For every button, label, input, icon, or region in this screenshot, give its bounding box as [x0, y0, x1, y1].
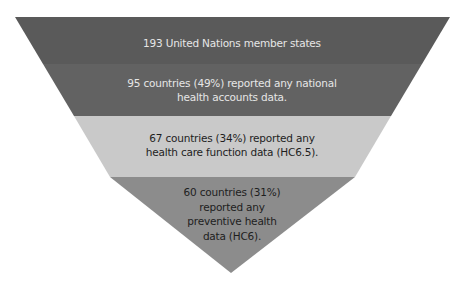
- tier-2-label: 95 countries (49%) reported any national…: [80, 76, 384, 104]
- tier-4-line-1: 60 countries (31%): [162, 185, 302, 200]
- tier-4-label: 60 countries (31%) reported any preventi…: [162, 185, 302, 243]
- tier-1-label: 193 United Nations member states: [80, 36, 384, 50]
- tier-2-line-2: health accounts data.: [80, 90, 384, 104]
- tier-4-line-3: preventive health: [162, 214, 302, 229]
- tier-4-line-4: data (HC6).: [162, 229, 302, 244]
- tier-3-label: 67 countries (34%) reported any health c…: [100, 131, 364, 159]
- tier-1-text: 193 United Nations member states: [143, 37, 321, 49]
- tier-3-line-2: health care function data (HC6.5).: [100, 145, 364, 159]
- tier-2-line-1: 95 countries (49%) reported any national: [80, 76, 384, 90]
- tier-4-line-2: reported any: [162, 200, 302, 215]
- tier-3-line-1: 67 countries (34%) reported any: [100, 131, 364, 145]
